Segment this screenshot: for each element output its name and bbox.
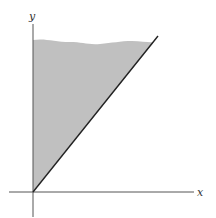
y-axis-label: y: [28, 10, 36, 23]
diagram-canvas: x y: [0, 0, 216, 218]
x-axis-label: x: [197, 186, 204, 199]
